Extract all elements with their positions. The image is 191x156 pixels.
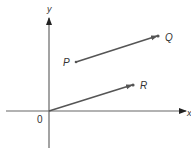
vector-diagram: y x 0 P Q R <box>0 0 191 156</box>
vector-pq <box>76 36 157 62</box>
x-axis-label: x <box>186 108 191 118</box>
point-p-label: P <box>63 57 70 68</box>
point-q-label: Q <box>165 32 173 43</box>
vector-or <box>49 85 132 111</box>
point-r <box>131 83 134 86</box>
y-axis-label: y <box>46 4 52 14</box>
origin-label: 0 <box>37 114 43 125</box>
point-q <box>156 34 159 37</box>
point-r-label: R <box>140 80 147 91</box>
point-p <box>75 61 78 64</box>
